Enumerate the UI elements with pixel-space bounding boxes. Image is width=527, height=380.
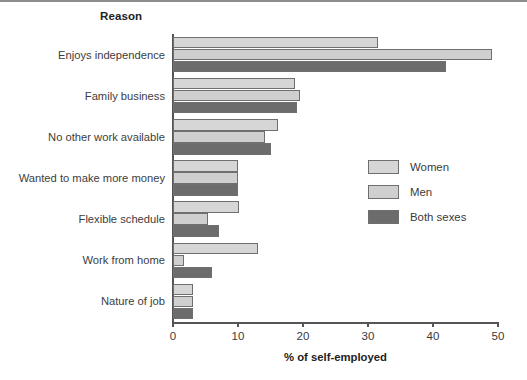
bar-women [173, 160, 238, 172]
bar-both-sexes [173, 308, 193, 320]
legend-item: Women [368, 156, 466, 177]
x-axis-tick [432, 322, 433, 327]
legend-swatch-women [368, 160, 399, 174]
bar-men [173, 90, 300, 102]
bar-women [173, 78, 295, 90]
x-axis-tick-label: 0 [170, 330, 176, 342]
x-axis-tick-label: 40 [427, 330, 440, 342]
legend-swatch-men [368, 185, 399, 199]
category-label: No other work available [0, 131, 165, 143]
category-label: Work from home [0, 254, 165, 266]
bar-both-sexes [173, 61, 446, 73]
bar-men [173, 213, 208, 225]
bar-group [173, 78, 498, 114]
x-axis-tick [302, 322, 303, 327]
bar-group [173, 284, 498, 320]
category-label: Enjoys independence [0, 49, 165, 61]
bar-both-sexes [173, 143, 271, 155]
x-axis-tick-label: 30 [362, 330, 375, 342]
bar-women [173, 284, 193, 296]
x-axis-tick-label: 10 [232, 330, 245, 342]
x-axis-tick-label: 50 [492, 330, 505, 342]
x-axis-tick [497, 322, 498, 327]
bar-both-sexes [173, 225, 219, 237]
legend-swatch-both-sexes [368, 210, 399, 224]
category-label: Nature of job [0, 295, 165, 307]
bar-both-sexes [173, 184, 238, 196]
bar-women [173, 243, 258, 255]
x-axis-tick [237, 322, 238, 327]
bar-men [173, 296, 193, 308]
category-label: Family business [0, 90, 165, 102]
chart-figure: Reason Enjoys independenceFamily busines… [0, 0, 527, 380]
category-label: Wanted to make more money [0, 172, 165, 184]
bar-men [173, 49, 492, 61]
legend-label: Men [410, 186, 432, 198]
x-axis-tick [172, 322, 173, 327]
bar-men [173, 131, 265, 143]
top-divider-rule [0, 0, 527, 2]
legend-label: Both sexes [410, 211, 466, 223]
x-axis-tick [367, 322, 368, 327]
bar-both-sexes [173, 267, 212, 279]
category-label-column: Enjoys independenceFamily businessNo oth… [0, 34, 165, 322]
bar-both-sexes [173, 102, 297, 114]
legend-item: Men [368, 181, 466, 202]
bar-men [173, 255, 184, 267]
bar-women [173, 201, 239, 213]
bar-group [173, 243, 498, 279]
x-axis-title: % of self-employed [173, 351, 498, 363]
x-axis-tick-label: 20 [297, 330, 310, 342]
bar-men [173, 172, 238, 184]
legend-label: Women [410, 161, 449, 173]
legend: WomenMenBoth sexes [368, 156, 466, 231]
bar-women [173, 119, 278, 131]
legend-item: Both sexes [368, 206, 466, 227]
y-axis-title: Reason [100, 10, 142, 22]
bar-group [173, 37, 498, 73]
bar-group [173, 119, 498, 155]
x-axis-line [172, 322, 499, 324]
bar-women [173, 37, 378, 49]
category-label: Flexible schedule [0, 213, 165, 225]
